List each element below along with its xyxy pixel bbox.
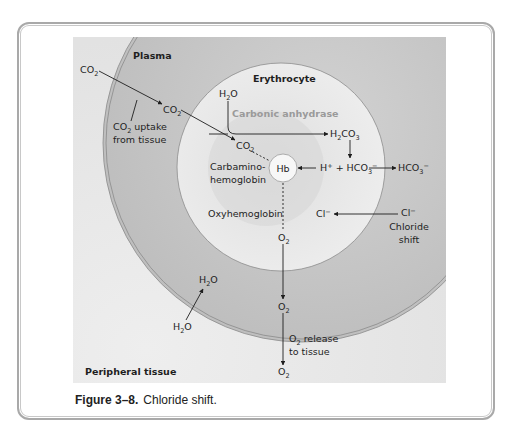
co2-uptake-label-line2: from tissue — [113, 134, 166, 145]
erythrocyte-label: Erythrocyte — [253, 73, 316, 84]
oxyhemoglobin-label: Oxyhemoglobin — [208, 208, 283, 219]
carbamino-label-line2: hemoglobin — [210, 174, 266, 185]
carbamino-label: Carbamino- — [210, 161, 266, 172]
o2-release-label-line2: to tissue — [289, 346, 330, 357]
chloride-shift-label-line2: shift — [399, 234, 420, 245]
carbonic-anhydrase-label: Carbonic anhydrase — [232, 108, 338, 119]
figure-number: Figure 3–8. — [75, 393, 138, 407]
figure-caption: Figure 3–8.Chloride shift. — [75, 393, 217, 407]
peripheral-tissue-label: Peripheral tissue — [85, 366, 176, 377]
chloride-shift-label: Chloride — [389, 221, 429, 232]
plasma-label: Plasma — [133, 50, 172, 61]
chloride-shift-diagram: Plasma Erythrocyte Peripheral tissue CO2… — [0, 0, 511, 439]
figure-caption-text: Chloride shift. — [143, 393, 216, 407]
hb-label: Hb — [276, 163, 289, 174]
